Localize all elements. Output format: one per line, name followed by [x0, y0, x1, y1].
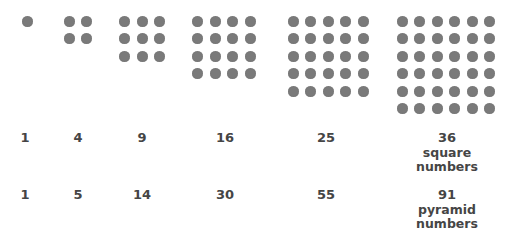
- dot: [305, 33, 316, 44]
- dot: [414, 68, 425, 79]
- dot: [119, 33, 130, 44]
- dot: [449, 33, 460, 44]
- dot: [245, 68, 256, 79]
- dot: [227, 68, 238, 79]
- dot: [449, 103, 460, 114]
- pyramid-number-55: 55: [317, 188, 335, 202]
- dot: [414, 51, 425, 62]
- square-caption-line1: square: [423, 146, 471, 160]
- dot: [414, 33, 425, 44]
- dot: [323, 33, 334, 44]
- dot: [245, 51, 256, 62]
- pyramid-number-91: 91: [438, 188, 456, 202]
- dot: [432, 68, 443, 79]
- dot: [397, 51, 408, 62]
- dot: [119, 16, 130, 27]
- dot: [192, 16, 203, 27]
- dot: [305, 68, 316, 79]
- dot: [288, 33, 299, 44]
- dot: [467, 68, 478, 79]
- dot: [484, 33, 495, 44]
- square-number-16: 16: [216, 131, 234, 145]
- dot: [210, 33, 221, 44]
- dot: [340, 86, 351, 97]
- dot: [397, 86, 408, 97]
- dot: [432, 86, 443, 97]
- dot: [137, 16, 148, 27]
- dot: [358, 86, 369, 97]
- dot: [227, 33, 238, 44]
- dot: [432, 103, 443, 114]
- square-number-4: 4: [73, 131, 82, 145]
- dot: [192, 68, 203, 79]
- dot: [323, 68, 334, 79]
- dot: [210, 16, 221, 27]
- dot: [245, 33, 256, 44]
- dot: [414, 16, 425, 27]
- dot: [358, 16, 369, 27]
- dot: [432, 33, 443, 44]
- dot: [64, 16, 75, 27]
- dot: [414, 86, 425, 97]
- dot: [467, 16, 478, 27]
- dot: [467, 51, 478, 62]
- pyramid-number-1: 1: [20, 188, 29, 202]
- square-number-9: 9: [137, 131, 146, 145]
- dot: [323, 86, 334, 97]
- dot: [154, 51, 165, 62]
- dot: [192, 33, 203, 44]
- dot: [484, 103, 495, 114]
- dot: [358, 68, 369, 79]
- square-number-1: 1: [20, 131, 29, 145]
- dot: [288, 68, 299, 79]
- dot: [340, 51, 351, 62]
- dot: [227, 51, 238, 62]
- dot: [340, 16, 351, 27]
- dot: [305, 86, 316, 97]
- dot: [192, 51, 203, 62]
- square-caption-line2: numbers: [416, 160, 478, 174]
- dot: [137, 33, 148, 44]
- dot: [449, 68, 460, 79]
- pyramid-caption-line2: numbers: [416, 217, 478, 231]
- dot: [432, 16, 443, 27]
- dot: [484, 68, 495, 79]
- dot: [358, 51, 369, 62]
- dot: [305, 51, 316, 62]
- pyramid-number-30: 30: [216, 188, 234, 202]
- dot: [449, 86, 460, 97]
- dot: [288, 51, 299, 62]
- pyramid-number-5: 5: [73, 188, 82, 202]
- dot: [397, 16, 408, 27]
- dot: [467, 86, 478, 97]
- dot: [397, 33, 408, 44]
- dot: [119, 51, 130, 62]
- dot: [154, 33, 165, 44]
- dot: [64, 33, 75, 44]
- dot: [288, 16, 299, 27]
- dot: [22, 16, 33, 27]
- dot: [210, 51, 221, 62]
- dot: [432, 51, 443, 62]
- dot: [305, 16, 316, 27]
- dot: [414, 103, 425, 114]
- dot: [288, 86, 299, 97]
- dot: [154, 16, 165, 27]
- dot: [484, 86, 495, 97]
- dot: [340, 68, 351, 79]
- dot: [449, 16, 460, 27]
- dot: [397, 68, 408, 79]
- dot: [467, 33, 478, 44]
- dot: [137, 51, 148, 62]
- dot: [81, 33, 92, 44]
- dot: [210, 68, 221, 79]
- dot: [323, 51, 334, 62]
- dot: [484, 51, 495, 62]
- pyramid-number-14: 14: [133, 188, 151, 202]
- dot: [467, 103, 478, 114]
- dot: [323, 16, 334, 27]
- dot: [227, 16, 238, 27]
- dot: [358, 33, 369, 44]
- dot: [81, 16, 92, 27]
- dot: [484, 16, 495, 27]
